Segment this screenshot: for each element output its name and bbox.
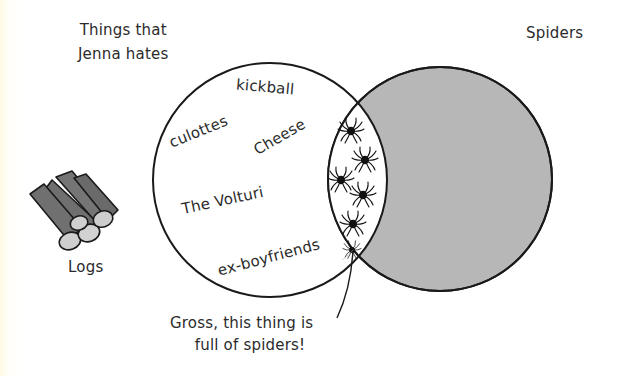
callout-line: Gross, this thing is xyxy=(170,314,313,332)
venn-diagram: Things that Jenna hates Spiders kickball… xyxy=(0,0,620,376)
callout-line: full of spiders! xyxy=(170,334,313,356)
logs-icon xyxy=(30,171,118,253)
callout-arrow xyxy=(337,250,353,318)
right-set-title: Spiders xyxy=(526,24,583,42)
left-set-title-line: Things that xyxy=(78,18,168,42)
callout-text: Gross, this thing is full of spiders! xyxy=(170,312,313,356)
left-set-title: Things that Jenna hates xyxy=(78,18,168,66)
logs-label: Logs xyxy=(68,258,103,276)
left-set-title-line: Jenna hates xyxy=(78,42,168,66)
